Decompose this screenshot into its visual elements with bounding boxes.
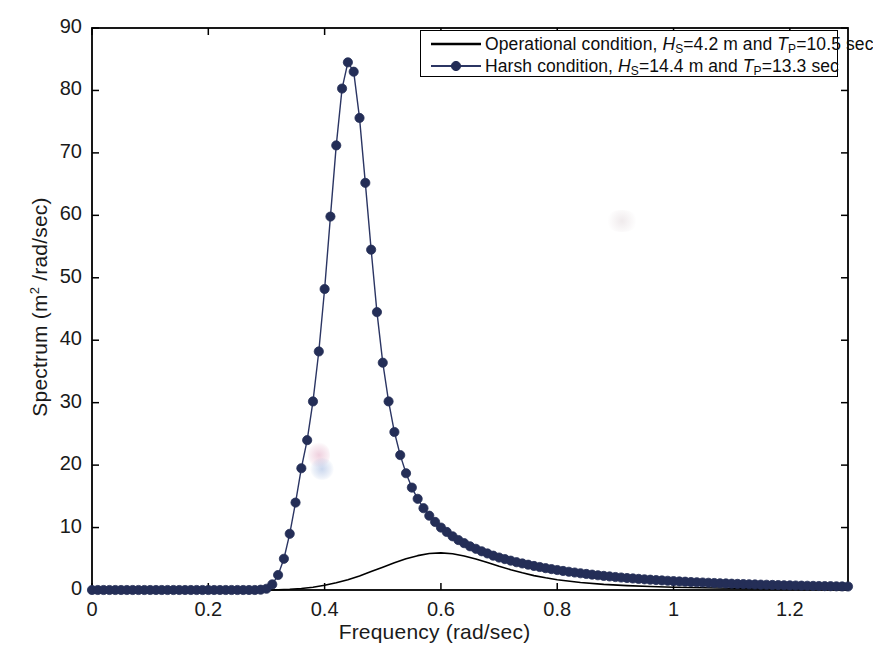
- y-axis-label: Spectrum (m2 /rad/sec): [27, 197, 52, 416]
- chart-legend: Operational condition, HS=4.2 m and TP=1…: [420, 30, 838, 77]
- series-marker-harsh: [273, 570, 282, 579]
- series-marker-harsh: [390, 427, 399, 436]
- x-tick-label-6: 1.2: [760, 598, 820, 621]
- legend-swatch-operational-line: [427, 34, 485, 54]
- series-marker-harsh: [401, 469, 410, 478]
- y-tick-label-3: 30: [22, 390, 82, 413]
- series-marker-harsh: [355, 113, 364, 122]
- x-tick-label-1: 0.2: [178, 598, 238, 621]
- series-marker-harsh: [320, 284, 329, 293]
- x-tick-label-5: 1: [644, 598, 704, 621]
- series-marker-harsh: [326, 212, 335, 221]
- series-marker-harsh: [396, 451, 405, 460]
- series-marker-harsh: [332, 141, 341, 150]
- series-marker-harsh: [361, 178, 370, 187]
- legend-entry-operational: Operational condition, HS=4.2 m and TP=1…: [421, 33, 837, 55]
- series-marker-harsh: [343, 58, 352, 67]
- series-marker-harsh: [407, 483, 416, 492]
- series-marker-harsh: [314, 347, 323, 356]
- legend-label-harsh: Harsh condition, HS=14.4 m and TP=13.3 s…: [485, 56, 839, 77]
- y-tick-label-6: 60: [22, 202, 82, 225]
- series-marker-harsh: [349, 67, 358, 76]
- legend-label-operational: Operational condition, HS=4.2 m and TP=1…: [485, 34, 873, 55]
- legend-entry-harsh: Harsh condition, HS=14.4 m and TP=13.3 s…: [421, 55, 837, 77]
- y-tick-label-9: 90: [22, 15, 82, 38]
- series-marker-harsh: [413, 494, 422, 503]
- series-marker-harsh: [285, 529, 294, 538]
- y-tick-label-0: 0: [22, 577, 82, 600]
- series-marker-harsh: [303, 436, 312, 445]
- series-marker-harsh: [268, 580, 277, 589]
- x-tick-label-2: 0.4: [295, 598, 355, 621]
- series-marker-harsh: [337, 84, 346, 93]
- series-marker-harsh: [843, 582, 852, 591]
- axes-frame: [92, 28, 848, 590]
- y-tick-label-2: 20: [22, 452, 82, 475]
- series-marker-harsh: [308, 397, 317, 406]
- series-marker-harsh: [372, 308, 381, 317]
- series-marker-harsh: [279, 554, 288, 563]
- x-tick-label-3: 0.6: [411, 598, 471, 621]
- y-tick-label-5: 50: [22, 265, 82, 288]
- y-tick-label-1: 10: [22, 515, 82, 538]
- series-marker-harsh: [367, 245, 376, 254]
- y-tick-label-7: 70: [22, 140, 82, 163]
- series-marker-harsh: [291, 498, 300, 507]
- series-marker-harsh: [384, 397, 393, 406]
- series-marker-harsh: [378, 358, 387, 367]
- y-tick-label-8: 80: [22, 77, 82, 100]
- x-axis-label: Frequency (rad/sec): [0, 620, 869, 644]
- legend-swatch-harsh-line-marker: [427, 56, 485, 76]
- y-tick-label-4: 40: [22, 327, 82, 350]
- x-tick-label-4: 0.8: [527, 598, 587, 621]
- x-tick-label-0: 0: [62, 598, 122, 621]
- series-marker-harsh: [297, 464, 306, 473]
